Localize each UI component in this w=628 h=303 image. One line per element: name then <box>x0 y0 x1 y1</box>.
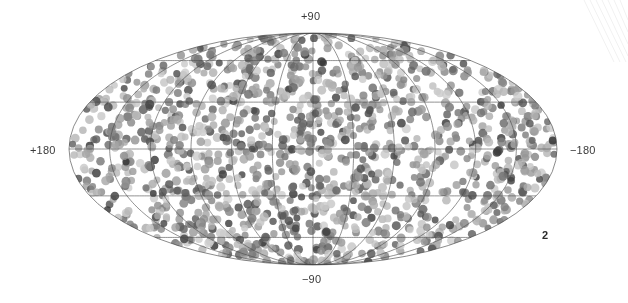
axis-label-right-longitude: −180 <box>570 144 596 156</box>
figure-root: +90 −90 +180 −180 2 <box>0 0 628 303</box>
axis-label-south-pole: −90 <box>302 273 321 285</box>
axis-label-north-pole: +90 <box>301 10 320 22</box>
mollweide-sky-map-canvas <box>0 0 628 303</box>
axis-label-left-longitude: +180 <box>30 144 56 156</box>
figure-number-label: 2 <box>542 229 548 241</box>
